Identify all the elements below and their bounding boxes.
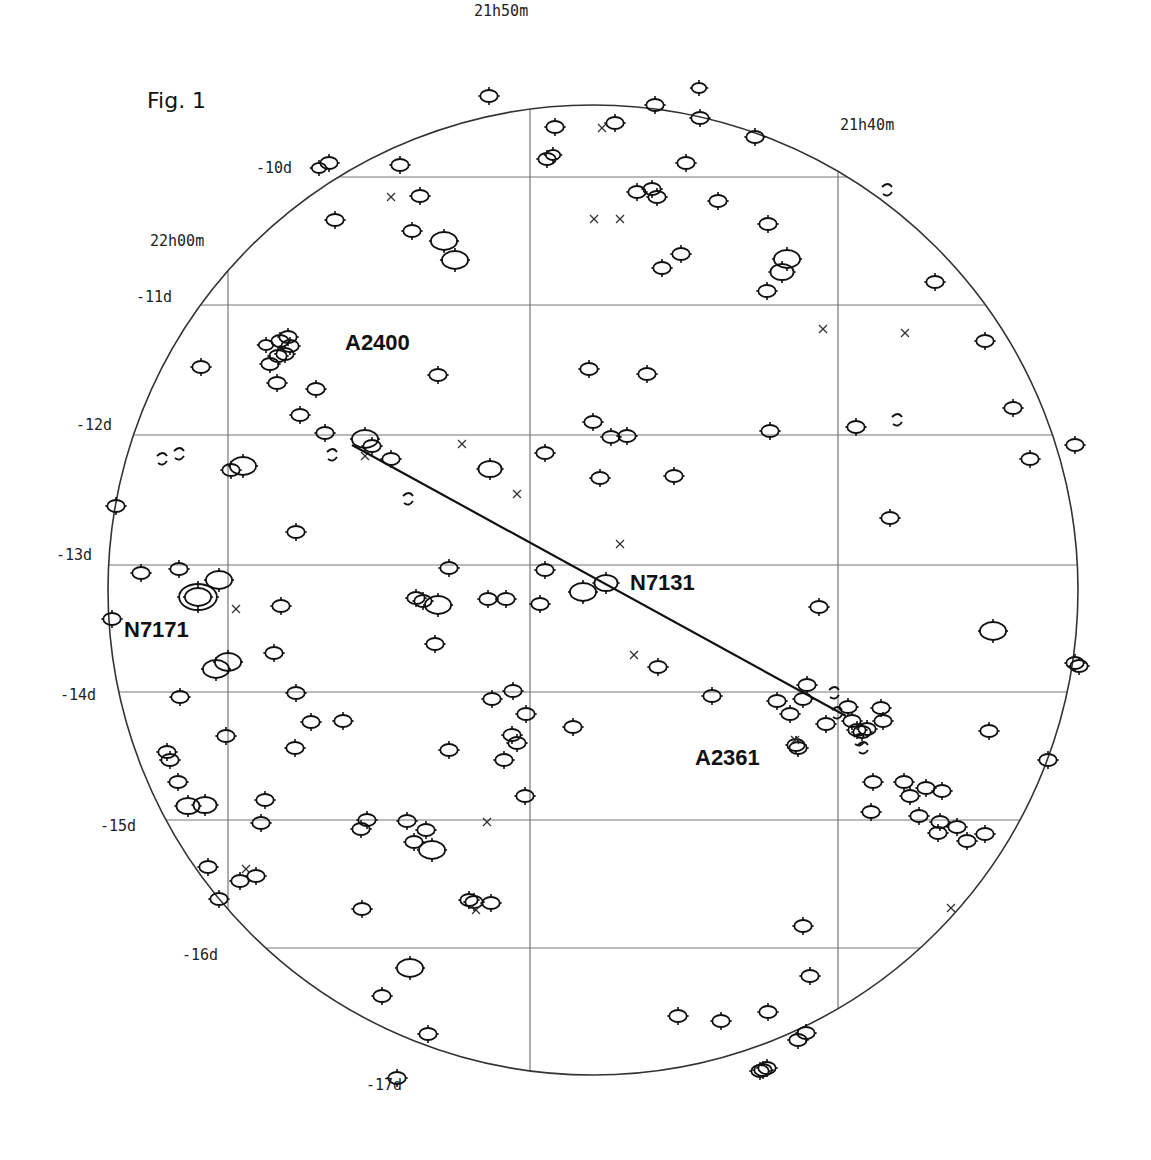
object-label-n7131: N7131: [630, 570, 695, 595]
galaxy-marker: [799, 967, 820, 985]
object-label-n7171: N7171: [124, 617, 189, 642]
galaxy-marker: [215, 727, 236, 745]
galaxy-marker: [270, 597, 291, 615]
galaxy-marker: [1064, 654, 1085, 672]
galaxy-marker: [757, 1003, 778, 1021]
galaxy-marker: [395, 956, 425, 980]
sky-chart: 21h50m21h40m22h00m-10d-11d-12d-13d-14d-1…: [0, 0, 1151, 1160]
galaxy-marker: [710, 1012, 731, 1030]
galaxy-marker: [101, 610, 122, 628]
object-label-a2400: A2400: [345, 330, 410, 355]
galaxy-marker: [1019, 450, 1040, 468]
grid-label: -15d: [100, 817, 136, 835]
galaxy-marker: [285, 523, 306, 541]
galaxy-marker: [893, 773, 914, 791]
galaxy-marker: [168, 560, 189, 578]
galaxy-marker: [332, 712, 353, 730]
galaxy-marker: [190, 358, 211, 376]
galaxy-marker: [285, 684, 306, 702]
galaxy-marker: [974, 332, 995, 350]
galaxy-marker: [578, 360, 599, 378]
cross-marker: [458, 440, 466, 448]
galaxy-marker: [924, 273, 945, 291]
galaxy-marker: [130, 564, 151, 582]
galaxy-marker: [401, 222, 422, 240]
galaxy-marker: [169, 688, 190, 706]
galaxy-marker: [481, 690, 502, 708]
cross-marker: [232, 605, 240, 613]
galaxy-marker: [636, 365, 657, 383]
galaxy-marker: [667, 1007, 688, 1025]
galaxy-marker: [266, 374, 287, 392]
object-labels: A2400N7131N7171A2361: [124, 330, 760, 770]
galaxy-marker: [506, 734, 527, 752]
galaxy-marker: [501, 726, 522, 744]
grid-label: -12d: [76, 416, 112, 434]
galaxy-marker: [424, 635, 445, 653]
galaxy-marker: [1002, 399, 1023, 417]
galaxy-marker: [644, 96, 665, 114]
galaxy-marker: [300, 713, 321, 731]
galaxy-marker: [284, 739, 305, 757]
galaxy-marker: [589, 469, 610, 487]
galaxy-marker: [756, 282, 777, 300]
galaxy-marker: [772, 247, 802, 271]
galaxy-marker: [502, 682, 523, 700]
galaxy-marker: [663, 467, 684, 485]
cross-marker: [598, 124, 606, 132]
partial-galaxy-marker: [403, 493, 413, 505]
cross-marker: [630, 651, 638, 659]
galaxy-marker: [476, 458, 503, 480]
grid-label: -13d: [56, 546, 92, 564]
grid-label: 21h50m: [474, 2, 528, 20]
galaxy-marker: [529, 595, 550, 613]
galaxy-marker: [845, 418, 866, 436]
galaxy-marker: [670, 245, 691, 263]
galaxy-marker: [250, 814, 271, 832]
galaxy-marker: [851, 723, 872, 741]
galaxy-marker: [427, 366, 448, 384]
galaxy-marker: [156, 743, 177, 761]
galaxy-marker: [197, 858, 218, 876]
galaxy-marker: [690, 80, 709, 96]
galaxy-marker: [228, 454, 258, 478]
galaxy-marker: [759, 422, 780, 440]
galaxy-marker: [438, 741, 459, 759]
galaxy-marker: [515, 705, 536, 723]
galaxy-marker: [604, 114, 625, 132]
galaxy-marker: [808, 598, 829, 616]
galaxy-marker: [493, 751, 514, 769]
cross-marker: [590, 215, 598, 223]
galaxy-marker: [766, 692, 787, 710]
cross-marker: [947, 904, 955, 912]
cross-marker: [901, 329, 909, 337]
galaxy-marker: [289, 406, 310, 424]
cross-marker: [387, 193, 395, 201]
grid-label: 22h00m: [150, 232, 204, 250]
cross-marker: [819, 325, 827, 333]
galaxy-marker: [324, 211, 345, 229]
cross-marker: [616, 215, 624, 223]
galaxy-marker: [862, 773, 883, 791]
galaxy-marker: [409, 187, 430, 205]
galaxy-marker: [277, 328, 298, 346]
galaxy-marker: [438, 559, 459, 577]
galaxy-marker: [978, 722, 999, 740]
grid-labels: 21h50m21h40m22h00m-10d-11d-12d-13d-14d-1…: [56, 2, 894, 1094]
grid-label: -14d: [60, 686, 96, 704]
galaxy-marker: [651, 259, 672, 277]
galaxy-marker: [701, 687, 722, 705]
galaxy-marker: [159, 751, 180, 769]
partial-galaxy-marker: [157, 453, 167, 465]
partial-galaxy-marker: [174, 448, 184, 460]
galaxy-marker: [675, 154, 696, 172]
grid-label: -10d: [256, 159, 292, 177]
galaxy-marker: [305, 380, 326, 398]
galaxy-marker: [908, 807, 929, 825]
cross-marker: [513, 490, 521, 498]
galaxy-marker: [879, 509, 900, 527]
galaxy-marker: [978, 619, 1008, 643]
galaxy-marker: [201, 657, 231, 681]
galaxy-marker: [417, 838, 447, 862]
galaxy-marker: [647, 658, 668, 676]
